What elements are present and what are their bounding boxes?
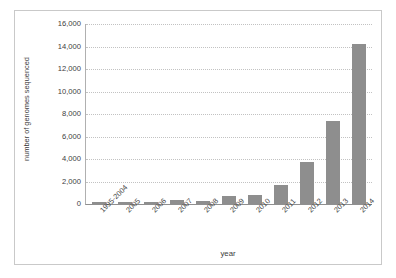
y-tick-label: 4,000 xyxy=(35,155,81,163)
y-tick-label: 14,000 xyxy=(35,43,81,51)
bar-slot xyxy=(86,24,112,204)
x-slot: 2012 xyxy=(293,206,319,252)
bar-slot xyxy=(216,24,242,204)
bar-slot xyxy=(268,24,294,204)
bar-slot xyxy=(294,24,320,204)
x-slot: 2005 xyxy=(111,206,137,252)
y-tick-label: 12,000 xyxy=(35,65,81,73)
chart-figure: number of genomes sequenced 02,0004,0006… xyxy=(14,10,382,265)
bar-slot xyxy=(242,24,268,204)
x-slot: 2007 xyxy=(163,206,189,252)
x-slot: 2011 xyxy=(267,206,293,252)
bar xyxy=(326,121,340,204)
x-slot: 2010 xyxy=(241,206,267,252)
bar xyxy=(300,162,314,204)
x-axis-tick-labels: 1995-20042005200620072008200920102011201… xyxy=(85,206,371,252)
bar xyxy=(352,44,366,204)
x-slot: 2006 xyxy=(137,206,163,252)
x-slot: 2014 xyxy=(345,206,371,252)
x-slot: 2009 xyxy=(215,206,241,252)
bar-slot xyxy=(346,24,372,204)
y-tick-label: 16,000 xyxy=(35,20,81,28)
bar-slot xyxy=(112,24,138,204)
plot-area xyxy=(85,24,372,205)
bar-slot xyxy=(190,24,216,204)
bar-series xyxy=(86,24,372,204)
x-axis-title: year xyxy=(85,249,371,258)
x-slot: 1995-2004 xyxy=(85,206,111,252)
x-slot: 2008 xyxy=(189,206,215,252)
x-slot: 2013 xyxy=(319,206,345,252)
y-tick-label: 2,000 xyxy=(35,178,81,186)
y-tick-label: 8,000 xyxy=(35,110,81,118)
y-axis-tick-labels: 02,0004,0006,0008,00010,00012,00014,0001… xyxy=(29,11,81,264)
bar-slot xyxy=(320,24,346,204)
y-tick-label: 10,000 xyxy=(35,88,81,96)
bar-slot xyxy=(164,24,190,204)
y-tick-label: 6,000 xyxy=(35,133,81,141)
bar-slot xyxy=(138,24,164,204)
y-tick-label: 0 xyxy=(35,200,81,208)
